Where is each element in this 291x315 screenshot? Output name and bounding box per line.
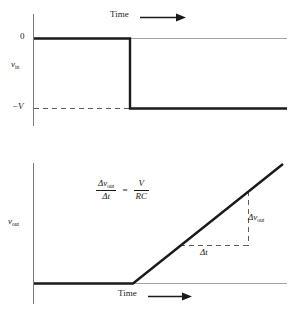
- equation-rhs-numerator: V: [137, 179, 147, 190]
- bottom-panel-group: [34, 163, 288, 304]
- top-axis-tick-negative-v: −V: [12, 102, 24, 111]
- waveform-plot-svg: [0, 0, 291, 315]
- equation-equals-sign: =: [121, 185, 128, 195]
- top-y-axis-label: vin: [11, 60, 19, 69]
- equation-lhs-numerator-base: Δv: [98, 178, 107, 188]
- delta-t-annotation: Δt: [200, 248, 208, 257]
- delta-vout-annotation-subscript: out: [257, 217, 264, 223]
- equation-lhs-denominator: Δt: [100, 191, 112, 202]
- equation-rhs-denominator: RC: [134, 191, 150, 202]
- equation-lhs-numerator: Δvout: [96, 179, 116, 190]
- figure-root: 0 −V vin Time vout Time Δvout Δt Δvout Δ…: [0, 0, 291, 315]
- output-ramp-waveform: [34, 164, 283, 284]
- top-y-axis-label-subscript: in: [15, 64, 19, 70]
- equation-rhs-fraction: V RC: [134, 179, 150, 201]
- input-step-waveform: [34, 39, 287, 109]
- top-time-arrow-icon: [140, 14, 186, 22]
- delta-vout-annotation: Δvout: [248, 213, 264, 222]
- top-panel-group: [34, 14, 288, 126]
- top-axis-tick-zero: 0: [20, 32, 25, 41]
- bottom-y-axis-label-subscript: out: [12, 221, 19, 227]
- slope-equation: Δvout Δt = V RC: [96, 179, 149, 201]
- equation-lhs-numerator-subscript: out: [107, 183, 114, 189]
- bottom-time-arrow-icon: [148, 293, 192, 301]
- bottom-x-axis-label: Time: [118, 289, 137, 298]
- delta-vout-annotation-base: Δv: [248, 212, 257, 222]
- top-x-axis-label: Time: [110, 10, 129, 19]
- equation-lhs-fraction: Δvout Δt: [96, 179, 116, 201]
- bottom-y-axis-label: vout: [8, 217, 19, 226]
